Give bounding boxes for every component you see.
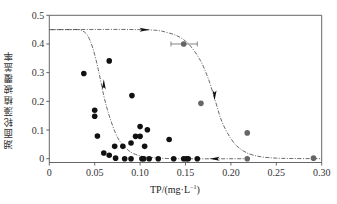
- direction-arrows: [102, 28, 220, 161]
- hysteresis-scatter-chart: 00.050.100.150.200.250.30 00.10.20.30.40…: [0, 0, 337, 204]
- y-tick-label: 0.1: [32, 125, 45, 136]
- plot-border: [49, 15, 321, 162]
- data-point: [129, 93, 135, 99]
- x-axis-ticks: 00.050.100.150.200.250.30: [47, 163, 331, 178]
- x-tick-label: 0.05: [86, 167, 104, 178]
- data-point: [311, 155, 317, 161]
- x-tick-label: 0: [47, 167, 52, 178]
- data-point: [244, 156, 250, 162]
- x-axis-label: TP/(mg·L−1): [150, 184, 270, 195]
- plot-frame: [49, 15, 321, 162]
- data-point: [198, 101, 204, 107]
- x-tick-label: 0.25: [268, 167, 286, 178]
- data-point: [146, 156, 152, 162]
- y-tick-label: 0.3: [32, 67, 45, 78]
- data-point: [95, 133, 101, 139]
- data-point: [106, 152, 112, 158]
- arrow-icon: [213, 91, 217, 101]
- data-point: [171, 156, 177, 162]
- data-point: [145, 127, 151, 133]
- y-axis-label: 湖面轮藻植被覆盖率: [2, 40, 16, 160]
- x-tick-label: 0.15: [177, 167, 195, 178]
- data-point: [120, 144, 126, 150]
- y-tick-label: 0.5: [32, 10, 45, 21]
- y-tick-label: 0.2: [32, 96, 45, 107]
- data-point: [141, 156, 147, 162]
- data-point: [112, 144, 118, 150]
- data-point: [122, 156, 128, 162]
- arrow-icon: [210, 157, 220, 161]
- y-tick-label: 0: [39, 153, 44, 164]
- dashed-curve: [49, 30, 249, 159]
- y-tick-label: 0.4: [32, 38, 45, 49]
- data-point: [137, 124, 143, 130]
- data-point: [128, 140, 134, 146]
- data-point: [128, 156, 134, 162]
- x-axis-label-base: TP/(mg·L: [150, 184, 190, 195]
- dashed-curves: [49, 29, 321, 158]
- data-point: [166, 137, 172, 143]
- data-point: [113, 155, 119, 161]
- data-point: [137, 134, 143, 140]
- data-point: [155, 156, 161, 162]
- arrow-icon: [102, 79, 106, 89]
- data-point: [101, 150, 107, 156]
- x-tick-label: 0.10: [131, 167, 149, 178]
- y-axis-ticks: 00.10.20.30.40.5: [32, 10, 50, 164]
- data-point: [106, 58, 112, 64]
- data-point: [244, 130, 250, 136]
- data-point: [92, 107, 98, 113]
- x-tick-label: 0.30: [313, 167, 331, 178]
- data-point: [185, 156, 191, 162]
- data-point: [195, 156, 201, 162]
- data-point: [92, 113, 98, 119]
- data-point: [81, 71, 87, 77]
- dashed-curve: [49, 29, 321, 158]
- data-point: [181, 41, 187, 47]
- data-points: [81, 41, 316, 161]
- data-point: [142, 144, 148, 150]
- x-tick-label: 0.20: [222, 167, 240, 178]
- x-axis-label-close: ): [196, 184, 199, 195]
